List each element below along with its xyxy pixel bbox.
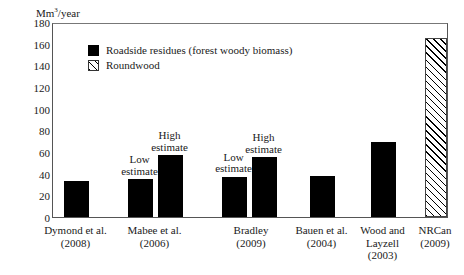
legend-item-roadside-residues: Roadside residues (forest woody biomass) (88, 43, 292, 58)
y-axis-tick-40: 40 (0, 169, 50, 181)
y-axis-tick-120: 120 (0, 82, 50, 94)
y-axis-tick-0: 0 (0, 212, 50, 224)
bar-1 (128, 179, 153, 217)
x-axis-label-0: Dymond et al.(2008) (31, 224, 121, 249)
legend-item-roundwood: Roundwood (88, 58, 292, 73)
y-axis-tick-140: 140 (0, 60, 50, 72)
bar-annotation-4: Highestimate (234, 132, 294, 155)
legend-label-roundwood: Roundwood (106, 58, 160, 73)
legend-label-roadside-residues: Roadside residues (forest woody biomass) (106, 43, 292, 58)
bar-0 (64, 181, 89, 217)
y-axis-tick-100: 100 (0, 104, 50, 116)
chart-container: Mm3/year 020406080100120140160180 Lowest… (0, 0, 464, 275)
legend-swatch-solid-icon (88, 45, 99, 56)
bar-7 (425, 38, 447, 217)
bar-3 (222, 177, 247, 217)
x-axis-label-5: NRCan(2009) (390, 224, 464, 249)
bar-6 (371, 142, 396, 217)
y-axis-tick-160: 160 (0, 39, 50, 51)
bar-annotation-1: Lowestimate (110, 154, 170, 177)
legend-swatch-hatch-icon (88, 60, 99, 71)
bar-annotation-2: Highestimate (140, 130, 200, 153)
y-axis-tick-20: 20 (0, 190, 50, 202)
y-axis-tick-80: 80 (0, 125, 50, 137)
x-axis-label-1: Mabee et al.(2006) (110, 224, 200, 249)
bar-5 (310, 176, 335, 217)
legend: Roadside residues (forest woody biomass)… (88, 43, 292, 73)
y-axis-tick-60: 60 (0, 147, 50, 159)
y-axis-title-suffix: /year (58, 7, 80, 19)
y-axis-tick-180: 180 (0, 17, 50, 29)
